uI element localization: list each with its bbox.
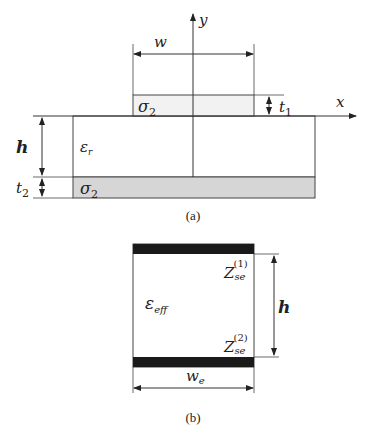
figure-b: h we εeff Zse(1) Zse(2) (b) [133,244,290,425]
y-axis-label: y [198,11,208,29]
bottom-plate [133,357,254,367]
h-label: h [16,137,28,157]
caption-b: (b) [185,410,200,425]
top-plate [133,244,254,254]
figure-a: x y w t1 h t2 σ2 εr σ2 (a) [16,11,356,223]
ground-plane [73,177,315,198]
x-axis-label: x [336,93,345,111]
we-label: we [186,367,205,386]
caption-a: (a) [186,208,200,223]
t1-label: t1 [279,98,292,119]
t2-label: t2 [16,179,29,200]
diagram-canvas: x y w t1 h t2 σ2 εr σ2 (a) [0,0,368,439]
h-label-b: h [278,297,290,317]
substrate [73,116,315,177]
w-label: w [154,33,167,51]
